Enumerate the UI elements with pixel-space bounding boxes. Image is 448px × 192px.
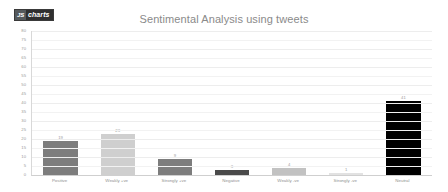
y-axis-tick-label: 0 bbox=[24, 173, 26, 177]
chart-screenshot: JS charts Sentimental Analysis using twe… bbox=[0, 0, 448, 192]
y-axis-tick-label: 55 bbox=[21, 74, 26, 78]
y-axis-tick-label: 60 bbox=[21, 65, 26, 69]
x-axis: PositiveWeakly +veStrongly +veNegativeWe… bbox=[31, 178, 431, 190]
x-axis-tick-label: Strongly +ve bbox=[162, 178, 187, 184]
bar-value-label: 1 bbox=[329, 167, 363, 172]
gridline bbox=[32, 94, 432, 95]
gridline bbox=[32, 121, 432, 122]
gridline bbox=[32, 103, 432, 104]
y-axis-tick-label: 70 bbox=[21, 47, 26, 51]
gridline bbox=[32, 139, 432, 140]
y-axis-tick-label: 45 bbox=[21, 92, 26, 96]
plot-canvas: 1923934141 bbox=[31, 31, 432, 176]
y-axis-tick-label: 5 bbox=[24, 164, 26, 168]
gridline bbox=[32, 40, 432, 41]
x-axis-tick-label: Weakly +ve bbox=[105, 178, 128, 184]
chart-title: Sentimental Analysis using tweets bbox=[0, 13, 448, 25]
x-axis-tick-label: Strongly -ve bbox=[334, 178, 357, 184]
y-axis-tick-label: 15 bbox=[21, 146, 26, 150]
gridline bbox=[32, 31, 432, 32]
y-axis-tick-label: 80 bbox=[21, 29, 26, 33]
gridline bbox=[32, 112, 432, 113]
chart-plot-area: 05101520253035404550556065707580 1923934… bbox=[14, 28, 434, 188]
y-axis-tick-label: 75 bbox=[21, 38, 26, 42]
y-axis-tick-label: 35 bbox=[21, 110, 26, 114]
gridline bbox=[32, 157, 432, 158]
y-axis-tick-label: 20 bbox=[21, 137, 26, 141]
gridline bbox=[32, 67, 432, 68]
bar[interactable] bbox=[215, 170, 249, 175]
gridline bbox=[32, 76, 432, 77]
bar[interactable] bbox=[329, 173, 363, 175]
y-axis-tick-label: 10 bbox=[21, 155, 26, 159]
gridline bbox=[32, 130, 432, 131]
y-axis-tick-label: 50 bbox=[21, 83, 26, 87]
y-axis: 05101520253035404550556065707580 bbox=[14, 28, 28, 174]
gridline bbox=[32, 166, 432, 167]
bar-value-label: 41 bbox=[386, 95, 420, 100]
y-axis-tick-label: 40 bbox=[21, 101, 26, 105]
x-axis-tick-label: Negative bbox=[222, 178, 239, 184]
bar[interactable] bbox=[272, 168, 306, 175]
y-axis-tick-label: 30 bbox=[21, 119, 26, 123]
x-axis-tick-label: Positive bbox=[52, 178, 67, 184]
gridline bbox=[32, 58, 432, 59]
x-axis-tick-label: Neutral bbox=[395, 178, 409, 184]
gridline bbox=[32, 148, 432, 149]
y-axis-tick-label: 25 bbox=[21, 128, 26, 132]
gridline bbox=[32, 49, 432, 50]
y-axis-tick-label: 65 bbox=[21, 56, 26, 60]
gridline bbox=[32, 85, 432, 86]
x-axis-tick-label: Weakly -ve bbox=[277, 178, 299, 184]
